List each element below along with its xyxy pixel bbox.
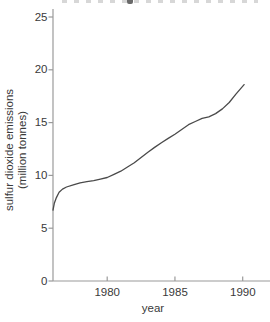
y-tick-label-5: 5 (41, 222, 47, 234)
y-tick-label-0: 0 (41, 275, 47, 287)
x-axis-title: year (142, 302, 165, 314)
y-tick-label-20: 20 (35, 63, 48, 75)
y-axis-ticks (49, 17, 54, 281)
x-axis-ticks (107, 277, 243, 282)
y-axis-title-line1: sulfur dioxide emissions (3, 89, 15, 211)
emissions-line-chart: 0 5 10 15 20 25 1980 1985 1990 year sulf… (0, 0, 270, 322)
y-tick-label-25: 25 (35, 11, 48, 23)
x-tick-label-1985: 1985 (162, 286, 188, 298)
chart-canvas: 0 5 10 15 20 25 1980 1985 1990 year sulf… (0, 0, 270, 322)
x-tick-label-1990: 1990 (230, 286, 256, 298)
so2-emissions-curve (53, 85, 244, 211)
x-tick-label-1980: 1980 (94, 286, 120, 298)
y-tick-label-10: 10 (35, 169, 48, 181)
y-tick-label-15: 15 (35, 116, 48, 128)
y-axis-title-line2: (million tonnes) (16, 111, 28, 189)
